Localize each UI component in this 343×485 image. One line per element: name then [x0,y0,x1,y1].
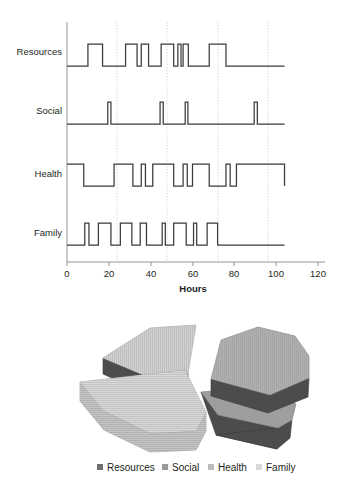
x-axis-ticks [67,262,318,266]
legend-label-social: Social [172,462,199,473]
category-label-family: Family [34,227,62,238]
category-label-resources: Resources [17,46,63,57]
step-trace-family [67,223,285,245]
pie-legend: Resources Social Health Family [97,462,295,473]
x-axis-title: Hours [179,283,206,294]
x-tick-label: 100 [268,268,284,279]
legend-label-resources: Resources [107,462,155,473]
legend-swatch-family [256,464,262,470]
legend-swatch-health [208,464,214,470]
x-tick-label: 80 [229,268,240,279]
exploded-pie-chart: Resources Social Health Family [0,300,343,485]
legend-label-health: Health [218,462,247,473]
category-label-health: Health [35,168,62,179]
legend-swatch-resources [97,464,103,470]
category-label-social: Social [36,105,62,116]
step-chart-svg: 0 20 40 60 80 100 120 Hours Resources So… [0,0,343,300]
x-tick-label: 20 [104,268,115,279]
step-traces [67,44,285,245]
pie-slice-health [80,370,206,452]
pie-slice-resources [211,327,309,413]
step-trace-social [67,102,285,124]
x-tick-label: 60 [188,268,199,279]
x-axis-tick-labels: 0 20 40 60 80 100 120 [64,268,326,279]
pie-chart-svg: Resources Social Health Family [0,300,343,485]
legend-swatch-social [162,464,168,470]
category-labels: Resources Social Health Family [17,46,63,238]
legend-label-family: Family [266,462,295,473]
x-tick-label: 0 [64,268,69,279]
step-timeline-chart: 0 20 40 60 80 100 120 Hours Resources So… [0,0,343,300]
step-trace-resources [67,44,285,66]
x-tick-label: 120 [310,268,326,279]
figure-page: 0 20 40 60 80 100 120 Hours Resources So… [0,0,343,485]
x-tick-label: 40 [146,268,157,279]
step-trace-health [67,164,285,186]
